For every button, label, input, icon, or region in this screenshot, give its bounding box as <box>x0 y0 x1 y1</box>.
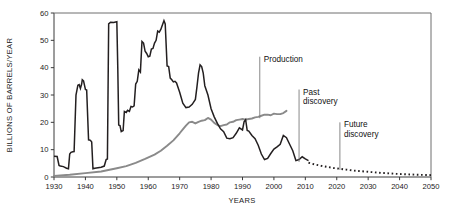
annotation-label-line: Future <box>344 120 368 129</box>
x-tick-label: 1970 <box>171 182 188 191</box>
chart-background <box>0 0 455 207</box>
x-tick-label: 1980 <box>203 182 220 191</box>
annotation-label-line: Past <box>303 88 320 97</box>
x-axis-title: YEARS <box>228 196 255 205</box>
y-tick-label: 30 <box>40 91 48 100</box>
x-tick-label: 1930 <box>46 182 63 191</box>
x-tick-label: 2030 <box>360 182 377 191</box>
x-tick-label: 1960 <box>140 182 157 191</box>
x-tick-label: 2010 <box>297 182 314 191</box>
x-tick-label: 1990 <box>234 182 251 191</box>
x-tick-label: 2040 <box>391 182 408 191</box>
chart-container: 1930194019501960197019801990200020102020… <box>0 0 455 207</box>
x-tick-label: 1950 <box>108 182 125 191</box>
annotation-label-line: Production <box>264 55 304 64</box>
y-tick-label: 10 <box>40 145 48 154</box>
y-tick-label: 20 <box>40 118 48 127</box>
y-tick-label: 60 <box>40 9 48 18</box>
annotation-label-line: discovery <box>344 130 379 139</box>
x-tick-label: 2000 <box>265 182 282 191</box>
y-tick-label: 40 <box>40 63 48 72</box>
y-axis-title: BILLIONS OF BARRELS/YEAR <box>5 38 14 153</box>
annotation-label-line: discovery <box>303 97 338 106</box>
annotation-label-production: Production <box>264 55 304 64</box>
x-tick-label: 2020 <box>328 182 345 191</box>
oil-discovery-production-chart: 1930194019501960197019801990200020102020… <box>0 0 455 207</box>
y-tick-label: 0 <box>44 173 48 182</box>
y-tick-label: 50 <box>40 36 48 45</box>
x-tick-label: 1940 <box>77 182 94 191</box>
x-tick-label: 2050 <box>423 182 440 191</box>
